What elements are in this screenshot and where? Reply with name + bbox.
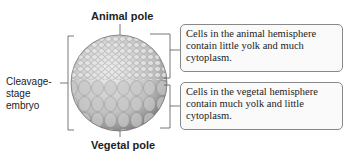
embryo-label-line3: embryo — [6, 100, 52, 112]
embryo-label: Cleavage- stage embryo — [6, 76, 52, 112]
vegetal-pole-label: Vegetal pole — [91, 139, 155, 151]
embryo-label-line1: Cleavage- — [6, 76, 52, 88]
vegetal-hemisphere-callout: Cells in the vegetal hemisphere contain … — [180, 82, 343, 130]
animal-hemisphere-callout: Cells in the animal hemisphere contain l… — [180, 24, 343, 72]
embryo-label-line2: stage — [6, 88, 52, 100]
cleavage-embryo-diagram: Animal pole Vegetal pole Cleavage- stage… — [0, 0, 346, 156]
animal-pole-label: Animal pole — [91, 10, 153, 22]
